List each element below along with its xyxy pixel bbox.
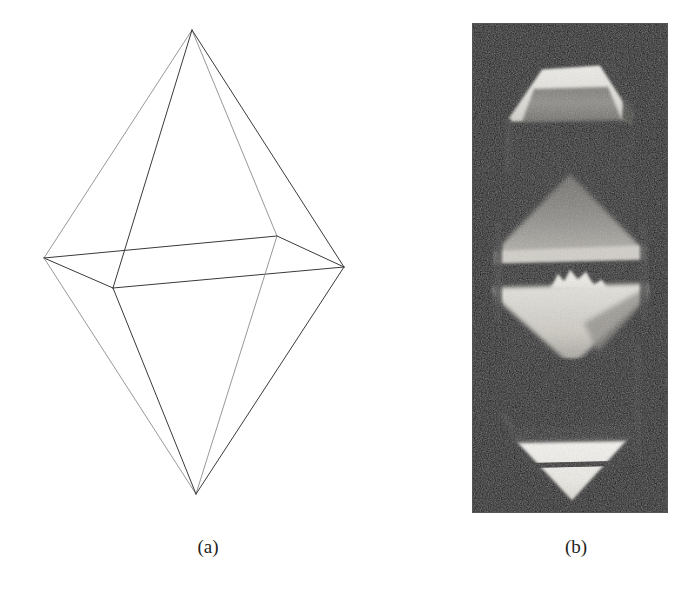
bottom-tip-shadow [512,425,630,443]
prism-right-edge-lower [634,343,642,453]
prism-left-edge-upper [505,119,511,173]
caption-a: (a) [148,536,268,558]
figure-root: (a) (b) [0,0,697,592]
top-cap-shadow [508,120,632,135]
prism-right-edge-middle [640,223,648,323]
wireframe-edge-group [44,30,344,494]
caption-b: (b) [516,536,636,558]
wireframe-edge-equator-front-left [44,258,113,288]
wireframe-edge-base-back [196,236,277,494]
wireframe-edge-apex-right [192,30,344,267]
top-cap-facet [522,87,622,122]
photo-content [472,23,668,513]
crystal-photograph [472,23,668,513]
wireframe-edge-equator-left-back [44,236,277,258]
wireframe-edge-apex-back [192,30,277,236]
bipyramid-wireframe-diagram [0,0,400,520]
wireframe-edge-equator-right-front [113,267,344,288]
wireframe-edge-apex-left [44,30,192,258]
wireframe-edge-base-left [44,258,196,494]
panel-a-wireframe [0,0,400,592]
prism-left-edge-middle [494,223,502,323]
wireframe-edge-apex-front [113,30,192,288]
wireframe-edge-base-right [196,267,344,494]
lower-dark-band [492,359,648,427]
wireframe-edge-base-front [113,288,196,494]
panel-b-photograph [400,0,697,592]
